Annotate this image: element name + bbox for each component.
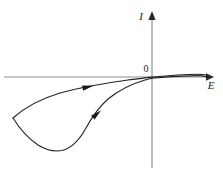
vertical-axis-group [148, 11, 155, 168]
vertical-axis-label: I [138, 10, 144, 22]
forward-scan-curve [13, 74, 208, 118]
plot-canvas: I E 0 [0, 0, 223, 171]
upper-branch-direction-arrow [82, 83, 94, 90]
horizontal-axis-label: E [207, 79, 215, 91]
origin-label: 0 [144, 63, 149, 74]
voltammogram-figure: I E 0 [0, 0, 223, 171]
reverse-scan-curve [13, 76, 208, 151]
vertical-axis-arrowhead [148, 11, 155, 20]
